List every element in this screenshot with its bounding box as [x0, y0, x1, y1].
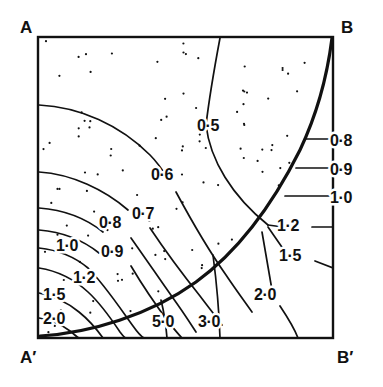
stipple-dot — [110, 148, 112, 150]
stipple-dot — [242, 103, 244, 105]
stipple-dot — [152, 228, 154, 230]
stipple-dot — [166, 116, 168, 118]
stipple-dot — [155, 137, 157, 139]
stipple-dot — [279, 167, 281, 169]
contour-label: 0·6 — [151, 166, 174, 183]
stipple-dot — [154, 254, 156, 256]
stipple-dot — [182, 42, 184, 44]
contour-label: 0·7 — [132, 205, 155, 222]
contour-label: 1·2 — [73, 269, 96, 286]
stipple-dot — [136, 194, 138, 196]
stipple-dot — [271, 144, 273, 146]
corner-label-top-right: B — [341, 18, 353, 37]
stipple-dot — [282, 69, 284, 71]
contour-label: 2·0 — [254, 286, 277, 303]
stipple-dot — [261, 149, 263, 151]
contour-label: 0·5 — [197, 117, 220, 134]
stipple-dot — [110, 154, 112, 156]
stipple-dot — [85, 53, 87, 55]
contour-plot-svg: 0·50·50·60·60·70·70·80·80·90·91·01·01·21… — [0, 0, 383, 387]
stipple-dot — [199, 140, 201, 142]
stipple-dot — [182, 93, 184, 95]
stipple-dot — [78, 127, 80, 129]
contour-label: 0·8 — [330, 132, 353, 149]
stipple-dot — [132, 273, 134, 275]
stipple-dot — [47, 331, 49, 333]
stipple-dot — [202, 181, 204, 183]
stipple-dot — [58, 75, 60, 77]
stipple-dot — [261, 171, 263, 173]
stipple-dot — [243, 90, 245, 92]
contour-label: 3·0 — [198, 313, 221, 330]
contour-label: 1·2 — [277, 217, 300, 234]
stipple-dot — [86, 190, 88, 192]
contour-plot-figure: 0·50·50·60·60·70·70·80·80·90·91·01·01·21… — [0, 0, 383, 387]
stipple-dot — [89, 120, 91, 122]
stipple-dot — [50, 202, 52, 204]
stipple-dot — [121, 279, 123, 281]
stipple-dot — [84, 120, 86, 122]
stipple-dot — [56, 188, 58, 190]
corner-label-top-left: A — [20, 18, 32, 37]
contour-label: 2·0 — [43, 310, 66, 327]
stipple-dot — [78, 135, 80, 137]
contour-label: 0·9 — [101, 243, 124, 260]
stipple-dot — [164, 258, 166, 260]
stipple-dot — [246, 92, 248, 94]
stipple-dot — [131, 247, 133, 249]
stipple-dot — [84, 171, 86, 173]
stipple-dot — [182, 145, 184, 147]
stipple-dot — [156, 61, 158, 63]
stipple-dot — [89, 312, 91, 314]
stipple-dot — [244, 65, 246, 67]
stipple-dot — [58, 188, 60, 190]
stipple-dot — [164, 98, 166, 100]
stipple-dot — [286, 135, 288, 137]
stipple-dot — [97, 173, 99, 175]
stipple-dot — [236, 111, 238, 113]
stipple-dot — [181, 149, 183, 151]
contour-label: 1·0 — [330, 189, 353, 206]
stipple-dot — [117, 280, 119, 282]
stipple-dot — [201, 267, 203, 269]
stipple-dot — [270, 149, 272, 151]
contour-label: 0·9 — [330, 161, 353, 178]
stipple-dot — [288, 162, 290, 164]
stipple-dot — [160, 119, 162, 121]
contour-label: 5·0 — [152, 313, 175, 330]
stipple-dot — [257, 160, 259, 162]
stipple-dot — [117, 273, 119, 275]
stipple-dot — [217, 243, 219, 245]
stipple-dot — [201, 264, 203, 266]
contour-label: 1·5 — [43, 286, 66, 303]
stipple-dot — [44, 251, 46, 253]
stipple-dot — [267, 98, 269, 100]
stipple-dot — [175, 208, 177, 210]
contour-label: 1·5 — [279, 247, 302, 264]
stipple-dot — [78, 56, 80, 58]
corner-label-bottom-left: A′ — [20, 348, 36, 367]
stipple-dot — [66, 225, 68, 227]
stipple-dot — [195, 107, 197, 109]
stipple-dot — [243, 157, 245, 159]
stipple-dot — [45, 40, 47, 42]
stipple-dot — [185, 53, 187, 55]
stipple-dot — [205, 147, 207, 149]
stipple-dot — [129, 310, 131, 312]
stipple-dot — [191, 249, 193, 251]
stipple-dot — [87, 235, 89, 237]
stipple-dot — [296, 90, 298, 92]
corner-label-bottom-right: B′ — [337, 348, 353, 367]
stipple-dot — [111, 52, 113, 54]
stipple-dot — [63, 279, 65, 281]
stipple-dot — [92, 300, 94, 302]
stipple-dot — [90, 71, 92, 73]
stipple-dot — [287, 73, 289, 75]
stipple-dot — [197, 57, 199, 59]
stipple-dot — [182, 51, 184, 53]
stipple-dot — [49, 142, 51, 144]
stipple-dot — [42, 148, 44, 150]
contour-label: 0·8 — [99, 214, 122, 231]
plot-frame — [38, 37, 333, 338]
stipple-dot — [181, 173, 183, 175]
